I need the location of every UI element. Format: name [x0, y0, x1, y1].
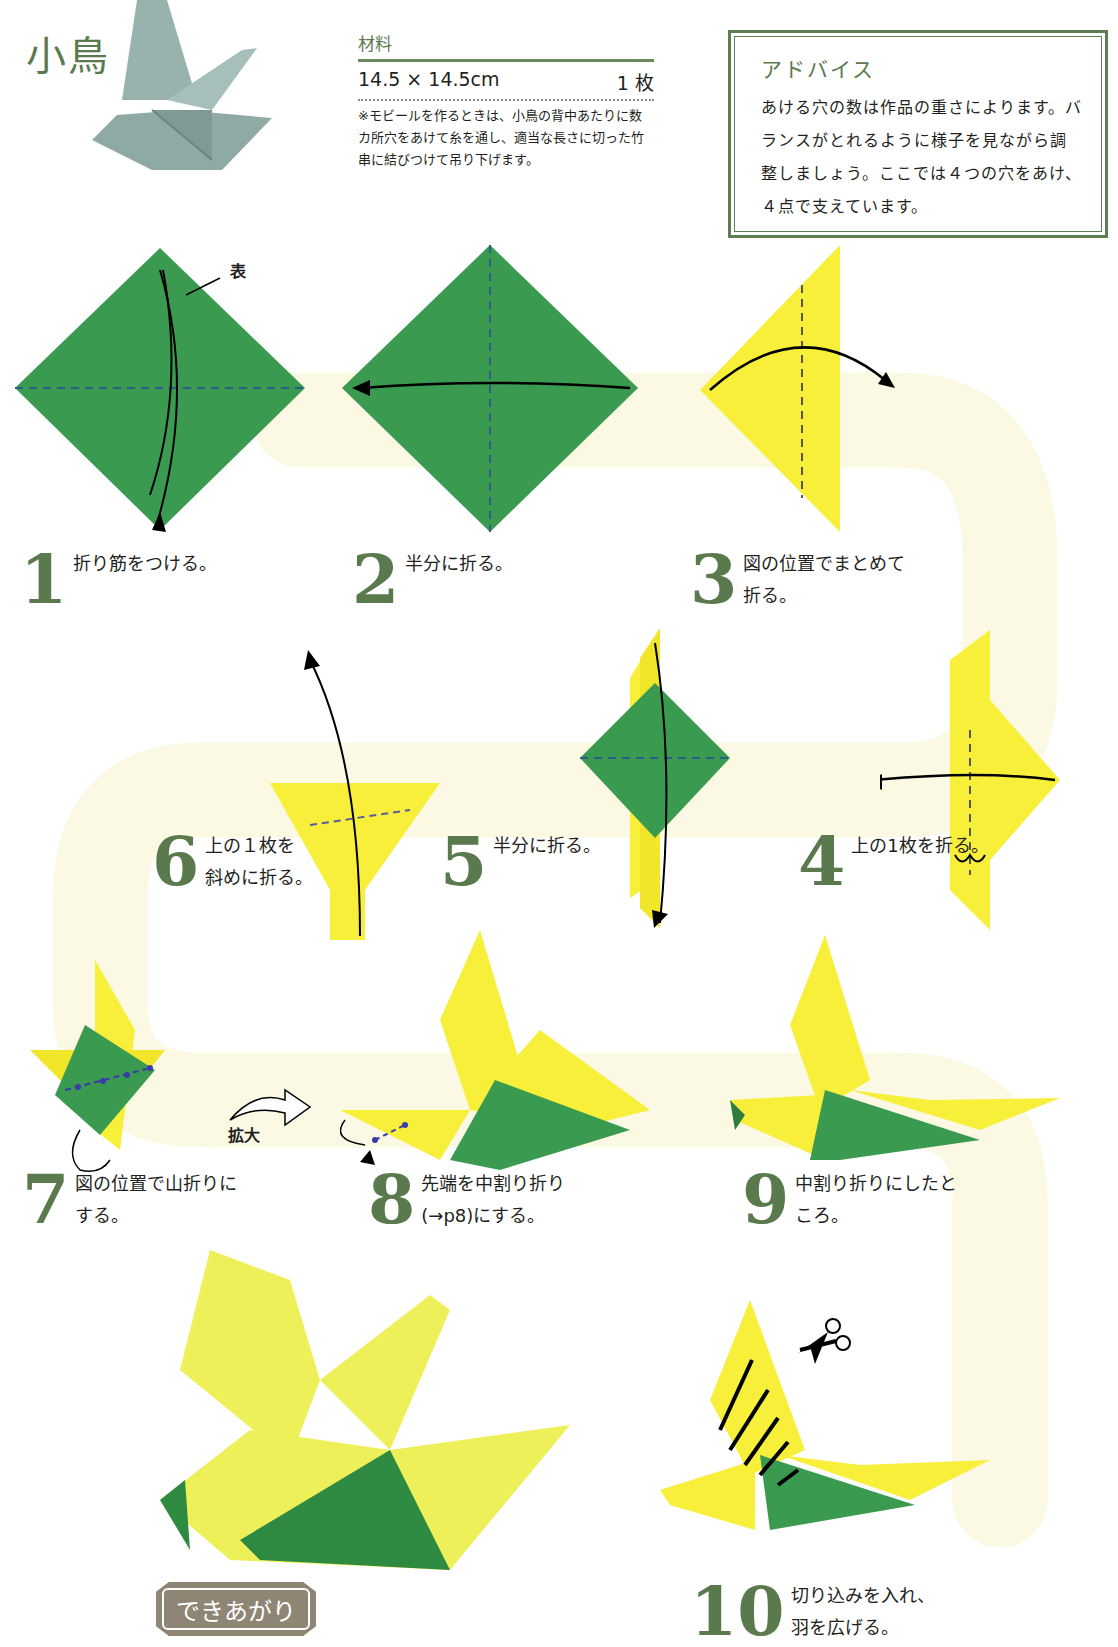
step-6: 6 上の１枚を 斜めに折る。: [152, 830, 313, 894]
materials-row: 14.5 × 14.5cm 1 枚: [358, 62, 654, 101]
step-2-diagram: [340, 240, 650, 540]
step-text: 上の１枚を 斜めに折る。: [205, 830, 313, 894]
finished-bird-image: [150, 1240, 570, 1570]
step-1: 1 折り筋をつける。: [20, 548, 217, 610]
materials-section: 材料 14.5 × 14.5cm 1 枚 ※モビールを作るときは、小鳥の背中あた…: [358, 30, 654, 171]
step-9-diagram: [730, 930, 1060, 1170]
finished-badge: できあがり: [156, 1582, 316, 1636]
advice-box: アドバイス あける穴の数は作品の重さによります。バランスがとれるように様子を見な…: [728, 30, 1108, 238]
paper-quantity: 1 枚: [617, 68, 654, 95]
step-7: 7 図の位置で山折りに する。: [22, 1168, 237, 1232]
advice-heading: アドバイス: [761, 53, 1083, 83]
step-3-diagram: [700, 240, 940, 540]
sample-bird-image: [92, 0, 292, 175]
step-1-diagram: [10, 240, 330, 540]
step-number: 1: [20, 548, 67, 610]
enlarge-label: 拡大: [228, 1122, 260, 1146]
scissors-icon: [795, 1316, 855, 1376]
step-5: 5 半分に折る。: [440, 830, 601, 892]
step-text: 中割り折りにしたと ころ。: [795, 1168, 957, 1232]
step-10: 10 切り込みを入れ、 羽を広げる。: [690, 1580, 935, 1644]
front-side-label: 表: [230, 258, 246, 282]
advice-body: あける穴の数は作品の重さによります。バランスがとれるように様子を見ながら調整しま…: [761, 91, 1083, 223]
step-8-diagram: [340, 930, 650, 1170]
step-number: 10: [690, 1580, 785, 1642]
step-3: 3 図の位置でまとめて 折る。: [690, 548, 905, 612]
step-text: 半分に折る。: [405, 548, 513, 580]
step-8: 8 先端を中割り折り (→p8)にする。: [368, 1168, 565, 1232]
step-text: 先端を中割り折り (→p8)にする。: [421, 1168, 565, 1232]
materials-heading: 材料: [358, 30, 654, 62]
step-text: 切り込みを入れ、 羽を広げる。: [791, 1580, 935, 1644]
step-number: 8: [368, 1168, 415, 1230]
step-number: 2: [352, 548, 399, 610]
step-5-diagram: [580, 628, 760, 928]
step-number: 4: [798, 830, 845, 892]
step-2: 2 半分に折る。: [352, 548, 513, 610]
step-text: 折り筋をつける。: [73, 548, 217, 580]
step-text: 図の位置でまとめて 折る。: [743, 548, 905, 612]
finished-label: できあがり: [162, 1588, 310, 1630]
step-number: 9: [742, 1168, 789, 1230]
materials-note: ※モビールを作るときは、小鳥の背中あたりに数カ所穴をあけて糸を通し、適当な長さに…: [358, 105, 654, 171]
step-9: 9 中割り折りにしたと ころ。: [742, 1168, 957, 1232]
step-text: 図の位置で山折りに する。: [75, 1168, 237, 1232]
paper-size: 14.5 × 14.5cm: [358, 68, 500, 95]
step-number: 7: [22, 1168, 69, 1230]
step-number: 5: [440, 830, 487, 892]
step-6-diagram: [250, 640, 450, 940]
step-text: 上の1枚を折る。: [851, 830, 988, 862]
step-4: 4 上の1枚を折る。: [798, 830, 989, 892]
step-number: 6: [152, 830, 199, 892]
step-number: 3: [690, 548, 737, 610]
step-text: 半分に折る。: [493, 830, 601, 862]
step-7-diagram: [30, 950, 230, 1180]
